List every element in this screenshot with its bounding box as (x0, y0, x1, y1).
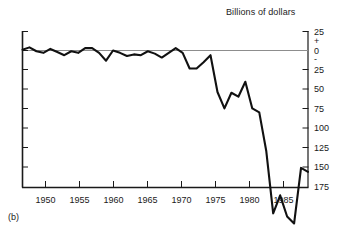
line-chart-plot: 25 + 0 - 25 50 75 100 125 150 175 1950 1… (0, 0, 347, 233)
x-tick-label-1980: 1980 (239, 195, 259, 205)
panel-caption: (b) (8, 212, 19, 222)
x-axis-ticks (46, 181, 284, 188)
y-axis-minus-sign: - (314, 54, 317, 64)
y-tick-label-125: 125 (314, 143, 329, 153)
y-axis-left-ticks (23, 32, 29, 168)
figure-panel: Billions of dollars (0, 0, 347, 233)
x-tick-label-1965: 1965 (137, 195, 157, 205)
y-tick-label-150: 150 (314, 162, 329, 172)
x-tick-label-1950: 1950 (35, 195, 55, 205)
data-series-line (23, 47, 309, 223)
y-tick-label-75: 75 (314, 104, 324, 114)
x-tick-label-1955: 1955 (69, 195, 89, 205)
y-tick-label-25-negative: 25 (314, 65, 324, 75)
y-axis-plus-sign: + (314, 36, 319, 46)
x-tick-label-1970: 1970 (171, 195, 191, 205)
y-tick-label-175: 175 (314, 182, 329, 192)
y-tick-label-50: 50 (314, 84, 324, 94)
x-tick-label-1975: 1975 (205, 195, 225, 205)
x-tick-label-1960: 1960 (103, 195, 123, 205)
y-tick-label-100: 100 (314, 123, 329, 133)
